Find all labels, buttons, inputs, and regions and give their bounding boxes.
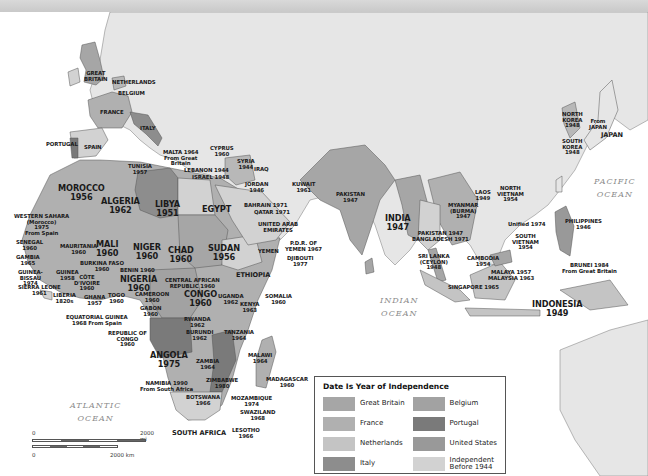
label-mozambique: MOZAMBIQUE 1974: [231, 396, 272, 407]
legend-swatch: [323, 417, 355, 431]
label-rep-congo: REPUBLIC OF CONGO 1960: [108, 331, 147, 348]
label-malawi: MALAWI 1964: [248, 353, 272, 364]
scale-km-end: 2000 km: [110, 452, 134, 458]
label-south-africa: SOUTH AFRICA: [172, 430, 226, 437]
label-cambodia: CAMBODIA 1954: [467, 256, 499, 267]
label-zambia: ZAMBIA 1964: [196, 359, 219, 370]
legend-swatch: [323, 457, 355, 471]
label-rwanda: RWANDA 1962: [184, 317, 211, 328]
label-lebanon: LEBANON 1944: [184, 168, 229, 174]
label-libya: LIBYA 1951: [155, 200, 180, 217]
ocean-indian: INDIAN OCEAN: [380, 295, 419, 321]
label-burundi: BURUNDI 1962: [186, 330, 213, 341]
label-south-korea: SOUTH KOREA 1948: [562, 139, 583, 156]
label-mauritania: MAURITANIA 1960: [60, 244, 97, 255]
legend-item-united-states: United States: [413, 436, 497, 452]
label-gambia: GAMBIA 1965: [16, 255, 40, 266]
label-western-sahara: WESTERN SAHARA (Morocco) 1975 From Spain: [14, 214, 69, 237]
legend-label: Great Britain: [360, 400, 405, 407]
label-brunei: BRUNEI 1984 From Great Britain: [562, 263, 617, 274]
label-sudan: SUDAN 1956: [208, 244, 240, 261]
legend-title: Date Is Year of Independence: [323, 382, 497, 391]
label-laos: LAOS 1949: [475, 190, 491, 201]
label-zimbabwe: ZIMBABWE 1980: [206, 378, 238, 389]
label-netherlands: NETHERLANDS: [112, 80, 156, 86]
legend-grid: Great Britain Belgium France Portugal Ne…: [323, 396, 497, 472]
label-lesotho: LESOTHO 1966: [232, 428, 260, 439]
label-unified: Unified 1974: [508, 222, 545, 228]
legend-swatch: [413, 457, 445, 471]
label-egypt: EGYPT: [202, 205, 231, 214]
label-namibia: NAMIBIA 1990 From South Africa: [140, 381, 193, 392]
label-cameroon: CAMEROON 1960: [135, 292, 169, 303]
label-portugal: PORTUGAL: [46, 142, 78, 148]
label-iraq: IRAQ: [254, 167, 269, 173]
label-angola: ANGOLA 1975: [150, 351, 188, 368]
legend-label: Netherlands: [360, 440, 403, 447]
legend-label: Belgium: [450, 400, 479, 407]
label-ghana: GHANA 1957: [84, 295, 105, 306]
label-niger: NIGER 1960: [133, 243, 161, 260]
legend-item-great-britain: Great Britain: [323, 396, 407, 412]
legend-label: France: [360, 420, 383, 427]
label-jordan: JORDAN 1946: [245, 182, 268, 193]
label-philippines: PHILIPPINES 1946: [565, 219, 602, 230]
label-madagascar: MADAGASCAR 1960: [266, 377, 308, 388]
label-uae: UNITED ARAB EMIRATES: [258, 222, 298, 233]
legend-item-netherlands: Netherlands: [323, 436, 407, 452]
label-great-britain: GREAT BRITAIN: [84, 71, 108, 82]
ocean-pacific: PACIFIC OCEAN: [594, 176, 636, 202]
label-benin: BENIN 1960: [120, 268, 155, 274]
label-algeria: ALGERIA 1962: [101, 197, 140, 214]
label-burkina-faso: BURKINA FASO 1960: [80, 261, 124, 272]
australia-landmass: [560, 320, 648, 476]
label-tanzania: TANZANIA 1964: [224, 330, 254, 341]
legend-label: Independent Before 1944: [450, 457, 494, 472]
label-malaya: MALAYA 1957 MALAYSIA 1963: [488, 270, 534, 281]
label-djibouti: DJIBOUTI 1977: [287, 256, 313, 267]
scale-mi-zero: 0: [32, 430, 36, 436]
label-pakistan: PAKISTAN 1947: [336, 192, 365, 203]
label-israel: ISRAEL 1948: [192, 175, 229, 181]
legend-box: Date Is Year of Independence Great Brita…: [314, 376, 506, 474]
label-north-vietnam: NORTH VIETNAM 1954: [497, 186, 524, 203]
label-spain: SPAIN: [84, 145, 102, 151]
label-senegal: SENEGAL 1960: [16, 240, 43, 251]
legend-swatch: [323, 437, 355, 451]
label-ethiopia: ETHIOPIA: [236, 272, 270, 279]
label-japan: JAPAN: [601, 132, 623, 139]
legend-item-italy: Italy: [323, 456, 407, 472]
legend-item-france: France: [323, 416, 407, 432]
label-france: FRANCE: [100, 110, 124, 116]
scale-km-bar: [32, 445, 118, 448]
label-myanmar: MYANMAR (BURMA) 1947: [448, 203, 478, 220]
label-syria: SYRIA 1944: [237, 159, 255, 170]
legend-label: United States: [450, 440, 497, 447]
legend-item-independent-before-1944: Independent Before 1944: [413, 456, 497, 472]
label-italy: ITALY: [140, 126, 155, 132]
philippines-shape: [555, 206, 574, 256]
label-yemen: YEMEN: [258, 249, 279, 255]
label-malta: MALTA 1964 From Great Britain: [163, 150, 198, 167]
legend-swatch: [413, 437, 445, 451]
label-nigeria: NIGERIA 1960: [120, 275, 157, 292]
label-kenya: KENYA 1963: [240, 302, 259, 313]
ocean-atlantic: ATLANTIC OCEAN: [70, 400, 121, 426]
label-belgium: BELGIUM: [118, 91, 145, 97]
legend-label: Italy: [360, 460, 375, 467]
legend-swatch: [413, 417, 445, 431]
label-sri-lanka: SRI LANKA (CEYLON) 1948: [418, 254, 449, 271]
label-car: CENTRAL AFRICAN REPUBLIC 1960: [165, 278, 220, 289]
label-cote-divoire: CÔTE D'IVOIRE 1960: [74, 275, 100, 292]
label-pdr-yemen: P.D.R. OF YEMEN 1967: [285, 241, 322, 252]
label-singapore: SINGAPORE 1965: [448, 285, 499, 291]
label-eq-guinea: EQUATORIAL GUINEA 1968 From Spain: [66, 315, 128, 326]
label-congo: CONGO 1960: [184, 290, 217, 307]
label-togo: TOGO 1960: [108, 293, 125, 304]
label-tunisia: TUNISIA 1957: [128, 164, 152, 175]
label-cyprus: CYPRUS 1960: [210, 146, 234, 157]
scale-km-zero: 0: [32, 452, 36, 458]
label-morocco: MOROCCO 1956: [58, 184, 105, 201]
legend-item-belgium: Belgium: [413, 396, 497, 412]
label-kuwait: KUWAIT 1961: [292, 182, 315, 193]
